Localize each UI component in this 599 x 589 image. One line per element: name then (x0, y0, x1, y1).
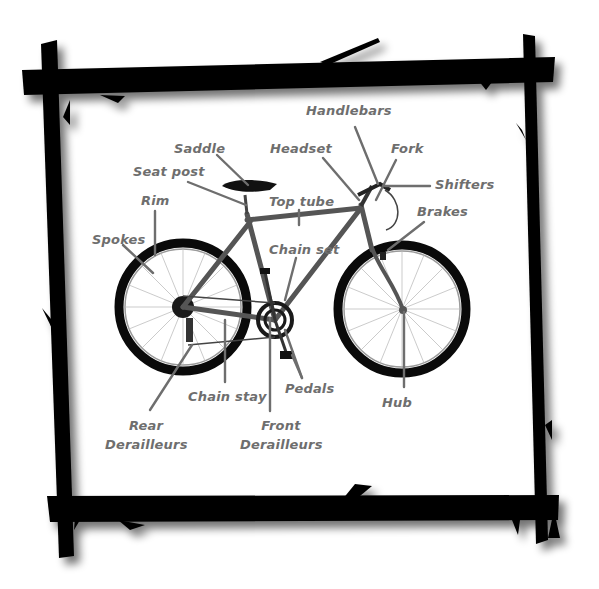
label-pedals: Pedals (285, 381, 334, 396)
label-spokes: Spokes (92, 232, 146, 247)
bicycle-parts-diagram: Handlebars Saddle Headset Fork Seat post… (0, 0, 599, 589)
label-rear-derailleurs-line2: Derailleurs (105, 437, 187, 452)
label-front-derailleurs: Front Derailleurs (240, 418, 322, 452)
label-top-tube: Top tube (269, 194, 334, 209)
diagram-artwork (0, 0, 599, 589)
bicycle-illustration (119, 180, 466, 373)
label-chain-stay: Chain stay (188, 389, 267, 404)
label-chain-set: Chain set (269, 242, 339, 257)
label-front-derailleurs-line2: Derailleurs (240, 437, 322, 452)
label-rear-derailleurs-line1: Rear (105, 418, 187, 433)
label-rear-derailleurs: Rear Derailleurs (105, 418, 187, 452)
label-front-derailleurs-line1: Front (240, 418, 322, 433)
label-handlebars: Handlebars (306, 103, 392, 118)
label-brakes: Brakes (417, 204, 468, 219)
label-fork: Fork (391, 141, 424, 156)
label-hub: Hub (382, 395, 412, 410)
label-saddle: Saddle (174, 141, 225, 156)
label-seat-post: Seat post (133, 164, 205, 179)
label-headset: Headset (270, 141, 332, 156)
label-shifters: Shifters (435, 177, 495, 192)
label-rim: Rim (141, 193, 170, 208)
